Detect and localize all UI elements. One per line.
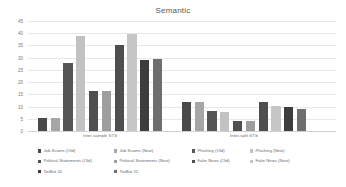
y-axis-tick-label: 40 — [18, 31, 23, 36]
bar — [89, 91, 98, 131]
chart-title: Semantic — [0, 6, 346, 15]
legend-item-label: Phishing (New) — [255, 149, 284, 153]
bar — [115, 45, 124, 131]
bar — [297, 109, 306, 131]
bar — [38, 118, 47, 131]
bar — [259, 102, 268, 131]
legend-item[interactable]: Phishing (New) — [250, 149, 312, 153]
legend-item-label: Political Statements (Old) — [43, 159, 91, 163]
bar — [76, 36, 85, 131]
legend-item[interactable]: Job Scams (New) — [114, 149, 192, 153]
legend-swatch-icon — [38, 149, 41, 152]
bar — [140, 60, 149, 131]
bar — [127, 34, 136, 131]
plot-area — [28, 21, 336, 131]
y-axis-tick-label: 25 — [18, 67, 23, 72]
bar — [102, 91, 111, 131]
legend-item[interactable]: Fake News (New) — [250, 159, 312, 163]
bar — [207, 111, 216, 131]
y-axis-tick-label: 10 — [18, 104, 23, 109]
legend-item-label: Fake News (Old) — [197, 159, 229, 163]
bar — [182, 102, 191, 131]
y-axis: 051015202530354045 — [0, 21, 26, 131]
bar — [271, 106, 280, 131]
bar — [195, 102, 204, 131]
y-axis-tick-label: 20 — [18, 80, 23, 85]
gridline — [28, 131, 336, 132]
legend-swatch-icon — [250, 149, 253, 152]
x-axis-category-labels: Inter-sample STSInter-split STS — [28, 133, 336, 143]
bar — [233, 121, 242, 131]
bar — [51, 118, 60, 131]
bar-group — [36, 21, 164, 131]
x-axis-category-label: Inter-sample STS — [83, 133, 117, 138]
legend-swatch-icon — [114, 160, 117, 163]
semantic-bar-chart: Semantic 051015202530354045 Inter-sample… — [0, 0, 346, 187]
legend-swatch-icon — [38, 160, 41, 163]
y-axis-tick-label: 15 — [18, 92, 23, 97]
bar-groups — [28, 21, 336, 131]
legend-swatch-icon — [250, 160, 253, 163]
legend-item-label: TwiBot 20 — [43, 170, 62, 174]
legend-item-label: Phishing (Old) — [197, 149, 224, 153]
legend-item-label: Fake News (New) — [255, 159, 289, 163]
bar — [284, 107, 293, 131]
legend-item-label: Job Scams (Old) — [43, 149, 75, 153]
legend-swatch-icon — [114, 149, 117, 152]
legend-item-label: TwiBot 22 — [119, 170, 138, 174]
legend-item[interactable]: TwiBot 22 — [114, 170, 192, 174]
legend-swatch-icon — [38, 170, 41, 173]
legend-item[interactable]: Political Statements (Old) — [38, 159, 114, 163]
y-axis-tick-label: 45 — [18, 19, 23, 24]
legend-item[interactable]: Political Statements (New) — [114, 159, 192, 163]
y-axis-tick-label: 30 — [18, 55, 23, 60]
legend-item[interactable]: Fake News (Old) — [192, 159, 250, 163]
legend-swatch-icon — [192, 149, 195, 152]
y-axis-tick-label: 0 — [20, 129, 23, 134]
bar — [63, 63, 72, 131]
bar — [153, 59, 162, 131]
legend-item[interactable]: Phishing (Old) — [192, 149, 250, 153]
bar-group — [180, 21, 308, 131]
legend-item[interactable]: TwiBot 20 — [38, 170, 114, 174]
y-axis-tick-label: 5 — [20, 116, 23, 121]
y-axis-tick-label: 35 — [18, 43, 23, 48]
legend-item[interactable]: Job Scams (Old) — [38, 149, 114, 153]
legend-item-label: Job Scams (New) — [119, 149, 153, 153]
legend-swatch-icon — [192, 160, 195, 163]
x-axis-category-label: Inter-split STS — [230, 133, 258, 138]
legend-swatch-icon — [114, 170, 117, 173]
legend-item-label: Political Statements (New) — [119, 159, 169, 163]
bar — [220, 112, 229, 131]
bar — [246, 121, 255, 131]
chart-legend: Job Scams (Old)Job Scams (New)Phishing (… — [38, 149, 318, 174]
